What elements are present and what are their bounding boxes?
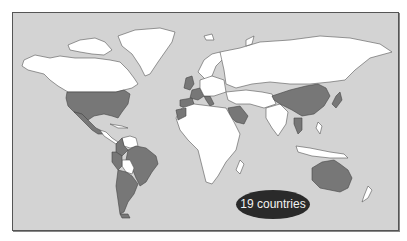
region-tierra-del-fuego[interactable]	[120, 214, 130, 218]
region-india[interactable]	[266, 104, 288, 136]
region-peru[interactable]	[112, 152, 122, 170]
region-japan[interactable]	[332, 92, 342, 108]
region-argentina-chile[interactable]	[116, 170, 138, 214]
region-central-europe[interactable]	[200, 76, 226, 96]
region-philippines[interactable]	[316, 122, 322, 134]
region-middle-east[interactable]	[226, 90, 276, 108]
region-canada-alaska[interactable]	[22, 55, 138, 92]
region-madagascar[interactable]	[236, 160, 244, 174]
region-indonesia[interactable]	[296, 146, 348, 158]
region-scandinavia[interactable]	[198, 52, 224, 80]
region-svalbard[interactable]	[204, 34, 214, 40]
region-central-america[interactable]	[100, 130, 118, 144]
region-thailand[interactable]	[294, 118, 302, 134]
region-new-zealand[interactable]	[362, 186, 372, 202]
region-caribbean[interactable]	[110, 124, 128, 128]
world-map	[0, 0, 407, 241]
region-australia[interactable]	[312, 160, 352, 192]
region-italy[interactable]	[204, 96, 214, 106]
country-count-badge: 19 countries	[236, 190, 310, 219]
region-united-kingdom[interactable]	[184, 76, 194, 90]
region-canadian-arctic[interactable]	[68, 38, 112, 55]
region-united-states[interactable]	[66, 90, 130, 120]
